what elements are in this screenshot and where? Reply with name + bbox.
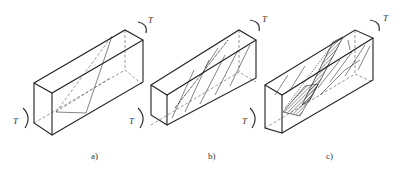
torque-arrow-bottom (138, 108, 143, 128)
panel-b: T T b) (129, 14, 268, 161)
torque-label-top: T (148, 15, 154, 25)
torque-label-bottom: T (242, 116, 248, 126)
torsion-diagram: T T a) T T b) (0, 0, 411, 179)
torque-arrow-top (250, 20, 259, 31)
torque-arrow-bottom (23, 108, 28, 128)
caption-c: c) (326, 151, 333, 161)
torque-arrow-top (138, 22, 146, 33)
torque-arrow-top (370, 20, 379, 31)
caption-a: a) (91, 151, 98, 161)
torque-label-bottom: T (129, 116, 135, 126)
torque-label-bottom: T (13, 116, 19, 126)
torque-label-top: T (262, 14, 268, 24)
panel-a: T T a) (13, 15, 154, 161)
caption-b: b) (208, 151, 216, 161)
torque-arrow-bottom (250, 108, 255, 128)
torque-label-top: T (383, 13, 389, 23)
panel-c: T T c) (242, 13, 389, 161)
